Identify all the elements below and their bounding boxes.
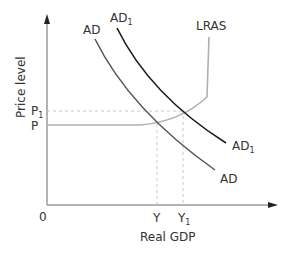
origin-label: 0 <box>39 210 47 224</box>
ad-bottom-label: AD <box>220 172 237 186</box>
x-axis-arrow-icon <box>268 202 278 208</box>
lras-curve <box>47 37 209 125</box>
ad1-bottom-label: AD1 <box>232 139 255 155</box>
ad1-top-label: AD1 <box>110 11 133 27</box>
ad-top-label: AD <box>83 23 100 37</box>
economics-diagram: Price level P1 P 0 Y Y1 Real GDP AD AD1 … <box>0 0 294 256</box>
x-axis-label: Real GDP <box>140 230 195 244</box>
y-label: Y <box>152 211 161 225</box>
p-label: P <box>31 119 38 133</box>
y-axis-label: Price level <box>14 56 28 118</box>
lras-label: LRAS <box>196 19 226 33</box>
p1-label: P1 <box>31 104 43 120</box>
y1-label: Y1 <box>177 211 190 227</box>
y-axis-arrow-icon <box>44 14 50 24</box>
